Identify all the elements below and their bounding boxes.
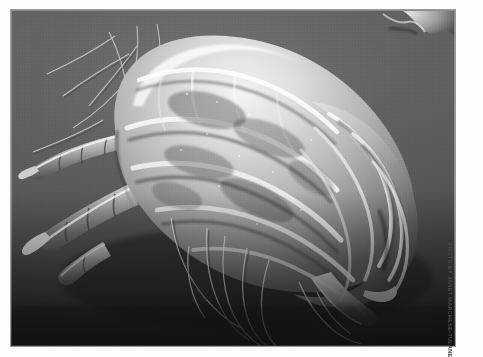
photo-credit: Photo by Janet Marchese-Tulane Photoshop	[443, 243, 457, 355]
specimen-illustration	[11, 10, 455, 346]
debris-particle	[379, 10, 455, 40]
photograph	[11, 10, 455, 346]
page-root: Photo by Janet Marchese-Tulane Photoshop	[0, 0, 483, 357]
